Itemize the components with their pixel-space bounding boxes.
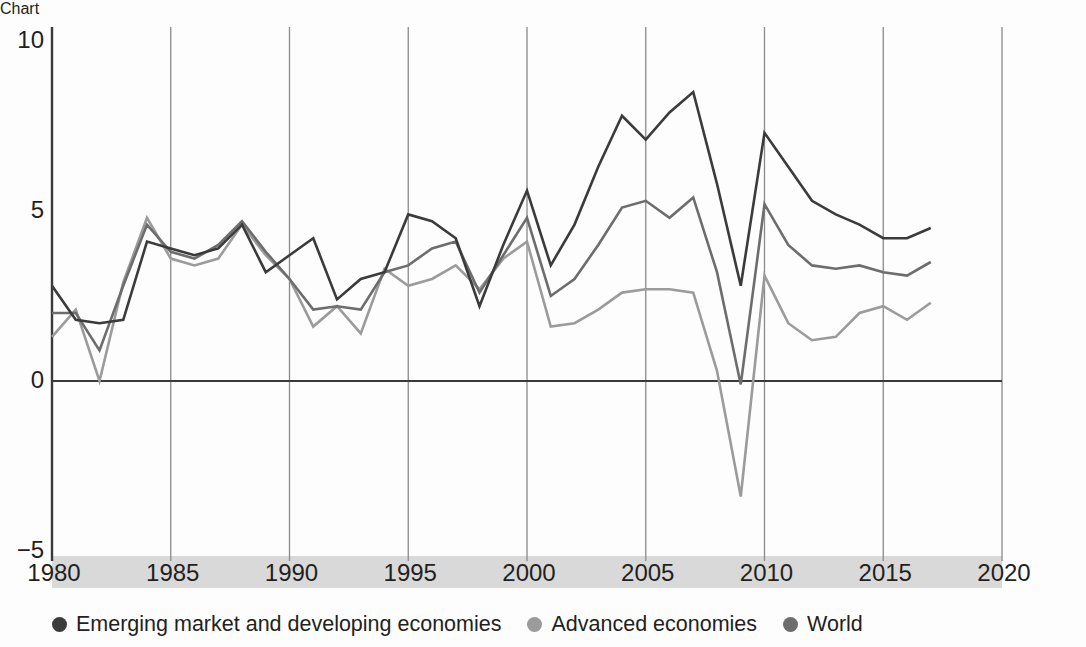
legend-item-0[interactable]: Emerging market and developing economies: [52, 612, 501, 637]
line-chart-plot: [0, 0, 1086, 647]
x-tick-label-2010: 2010: [722, 560, 812, 586]
legend-item-2[interactable]: World: [783, 612, 863, 637]
gridlines-group: [52, 27, 1002, 561]
y-tick-label-0: 0: [0, 366, 44, 394]
legend-dot-icon: [527, 617, 542, 632]
y-tick-label-5: 5: [0, 196, 44, 224]
legend-label: World: [807, 612, 863, 637]
x-tick-label-1985: 1985: [128, 560, 218, 586]
legend-label: Emerging market and developing economies: [76, 612, 501, 637]
legend-dot-icon: [52, 617, 67, 632]
x-tick-label-1990: 1990: [247, 560, 337, 586]
x-tick-label-1995: 1995: [365, 560, 455, 586]
series-line-world: [52, 197, 931, 384]
y-tick-label-10: 10: [0, 26, 44, 54]
x-tick-label-2020: 2020: [959, 560, 1049, 586]
chart-container: 1050−5 198019851990199520002005201020152…: [0, 0, 1086, 647]
legend-dot-icon: [783, 617, 798, 632]
series-line-emerging-market-and-developing-economies: [52, 92, 931, 323]
x-tick-label-2015: 2015: [840, 560, 930, 586]
series-line-advanced-economies: [52, 218, 931, 497]
legend-label: Advanced economies: [551, 612, 757, 637]
x-tick-label-1980: 1980: [9, 560, 99, 586]
series-lines-group: [52, 92, 931, 497]
x-tick-label-2005: 2005: [603, 560, 693, 586]
chart-legend: Emerging market and developing economies…: [52, 608, 889, 640]
legend-item-1[interactable]: Advanced economies: [527, 612, 757, 637]
x-tick-label-2000: 2000: [484, 560, 574, 586]
